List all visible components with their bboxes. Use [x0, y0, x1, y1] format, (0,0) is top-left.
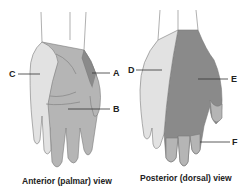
anterior-caption: Anterior (palmar) view [22, 176, 112, 186]
posterior-hand [140, 10, 222, 166]
label-b: B [113, 105, 120, 114]
anterior-hand [30, 12, 101, 167]
label-e: E [231, 75, 237, 84]
label-d: D [128, 66, 135, 75]
region-f [166, 134, 200, 166]
label-c: C [9, 70, 16, 79]
label-f: F [232, 138, 238, 147]
posterior-caption: Posterior (dorsal) view [140, 173, 232, 183]
hand-diagram [0, 0, 247, 195]
label-a: A [113, 69, 120, 78]
